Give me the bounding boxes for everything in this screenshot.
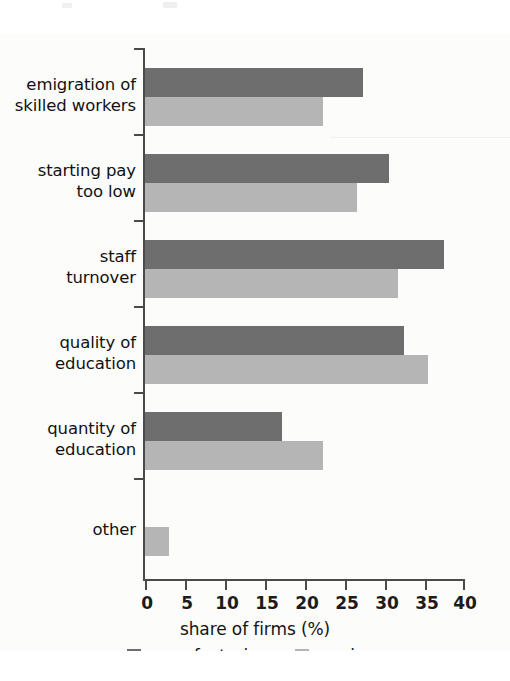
category-label-line: quality of bbox=[4, 332, 136, 353]
category-label-quantity-of-education: quantity of education bbox=[4, 418, 136, 460]
bar-manufacturing-starting-pay-too-low bbox=[145, 154, 389, 183]
x-axis-tick-label: 15 bbox=[247, 593, 287, 613]
x-axis-tick-label: 25 bbox=[327, 593, 367, 613]
category-label-line: turnover bbox=[4, 267, 136, 288]
x-axis-tick-label: 30 bbox=[367, 593, 407, 613]
x-axis-tick-label: 20 bbox=[287, 593, 327, 613]
scan-artifact-top bbox=[0, 0, 510, 34]
bar-services-emigration-of-skilled-workers bbox=[145, 97, 323, 126]
bar-services-quantity-of-education bbox=[145, 441, 323, 470]
category-label-line: skilled workers bbox=[4, 95, 136, 116]
y-axis-tick bbox=[134, 392, 144, 394]
x-axis-tick-label: 0 bbox=[127, 593, 167, 613]
category-label-emigration-of-skilled-workers: emigration of skilled workers bbox=[4, 74, 136, 116]
category-label-quality-of-education: quality of education bbox=[4, 332, 136, 374]
category-label-starting-pay-too-low: starting pay too low bbox=[4, 160, 136, 202]
category-label-line: emigration of bbox=[4, 74, 136, 95]
x-axis-tick-label: 40 bbox=[445, 593, 485, 613]
category-label-line: education bbox=[4, 439, 136, 460]
category-label-other: other bbox=[4, 519, 136, 540]
y-axis-tick bbox=[134, 306, 144, 308]
bar-manufacturing-quality-of-education bbox=[145, 326, 404, 355]
chart-surface: emigration of skilled workers starting p… bbox=[0, 34, 510, 651]
category-axis-labels: emigration of skilled workers starting p… bbox=[0, 48, 136, 579]
chart-page: emigration of skilled workers starting p… bbox=[0, 0, 510, 681]
category-label-line: quantity of bbox=[4, 418, 136, 439]
x-axis-tick bbox=[345, 581, 347, 590]
x-axis-tick bbox=[305, 581, 307, 590]
x-axis-title: share of firms (%) bbox=[0, 619, 510, 639]
category-label-line: staff bbox=[4, 246, 136, 267]
category-label-line: education bbox=[4, 353, 136, 374]
category-label-line: other bbox=[4, 519, 136, 540]
x-axis-tick bbox=[425, 581, 427, 590]
x-axis-tick bbox=[185, 581, 187, 590]
x-axis-line bbox=[143, 579, 465, 581]
x-axis-tick bbox=[265, 581, 267, 590]
bar-services-starting-pay-too-low bbox=[145, 183, 357, 212]
category-label-staff-turnover: staff turnover bbox=[4, 246, 136, 288]
y-axis-tick bbox=[134, 220, 144, 222]
x-axis-tick bbox=[145, 581, 147, 590]
scan-artifact-bottom bbox=[0, 651, 510, 681]
x-axis-tick-label: 35 bbox=[407, 593, 447, 613]
y-axis-tick bbox=[134, 134, 144, 136]
x-axis-tick bbox=[225, 581, 227, 590]
y-axis-line bbox=[143, 48, 145, 579]
category-label-line: too low bbox=[4, 181, 136, 202]
x-axis-tick bbox=[385, 581, 387, 590]
bar-manufacturing-quantity-of-education bbox=[145, 412, 282, 441]
bar-services-staff-turnover bbox=[145, 269, 398, 298]
x-axis-tick bbox=[463, 581, 465, 590]
bar-manufacturing-emigration-of-skilled-workers bbox=[145, 68, 363, 97]
plot-area: 0 5 10 15 20 25 30 35 40 bbox=[145, 48, 465, 579]
bar-manufacturing-staff-turnover bbox=[145, 240, 444, 269]
y-axis-tick bbox=[134, 478, 144, 480]
x-axis-tick-label: 5 bbox=[167, 593, 207, 613]
y-axis-tick bbox=[134, 48, 144, 50]
bar-services-other bbox=[145, 527, 169, 556]
bar-services-quality-of-education bbox=[145, 355, 428, 384]
category-label-line: starting pay bbox=[4, 160, 136, 181]
x-axis-tick-label: 10 bbox=[207, 593, 247, 613]
